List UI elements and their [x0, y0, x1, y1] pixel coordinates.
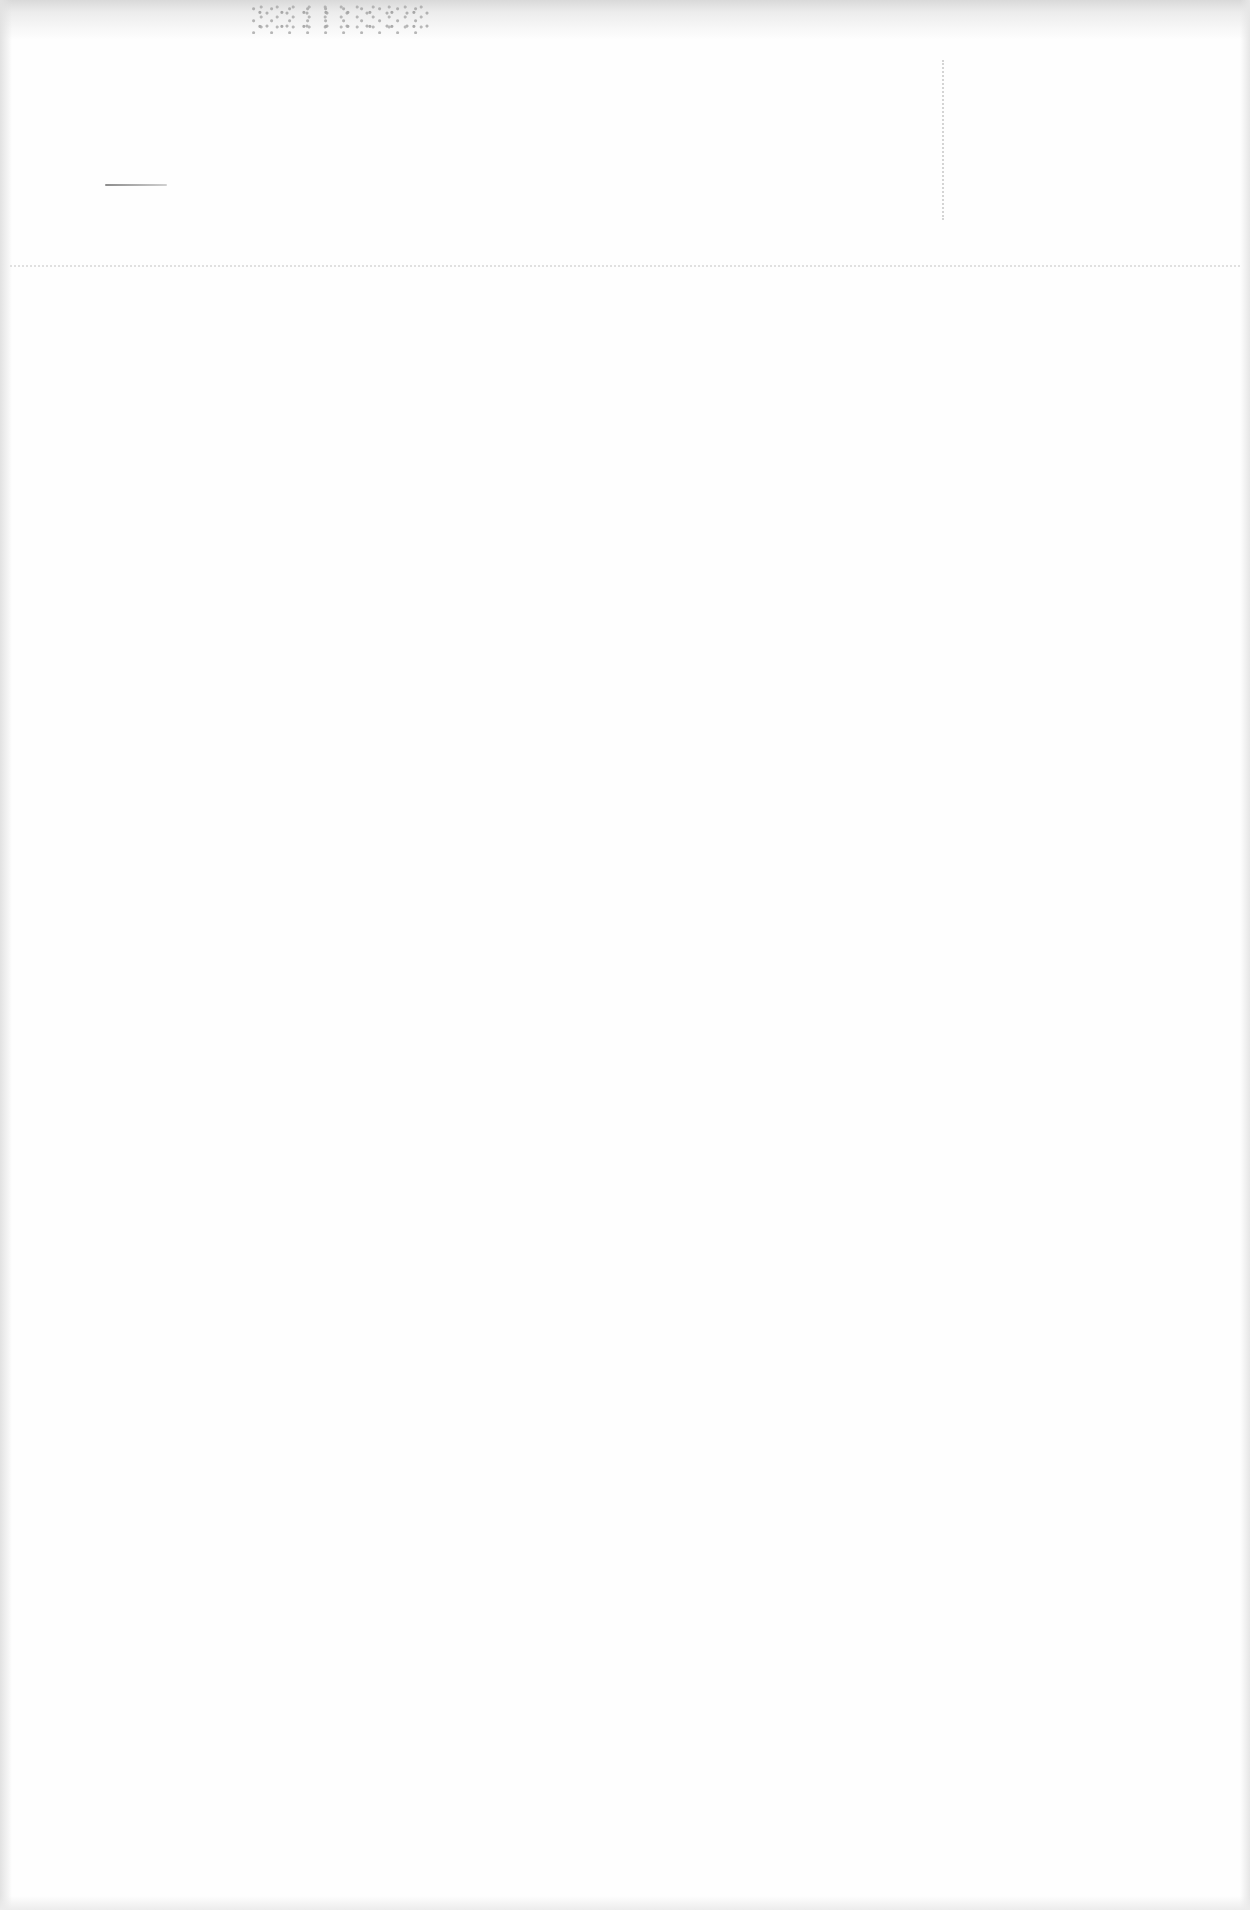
- scan-speckle-noise: [250, 4, 430, 34]
- scan-left-edge-shadow: [0, 0, 12, 1910]
- scan-bottom-edge-shadow: [0, 1896, 1250, 1910]
- faint-horizontal-fold-line: [10, 265, 1240, 267]
- blank-page: [0, 0, 1250, 1910]
- faint-vertical-fold-line: [942, 60, 944, 220]
- stray-pen-mark: [105, 184, 167, 186]
- scan-top-edge-shadow: [0, 0, 1250, 40]
- scan-right-edge-shadow: [1240, 0, 1250, 1910]
